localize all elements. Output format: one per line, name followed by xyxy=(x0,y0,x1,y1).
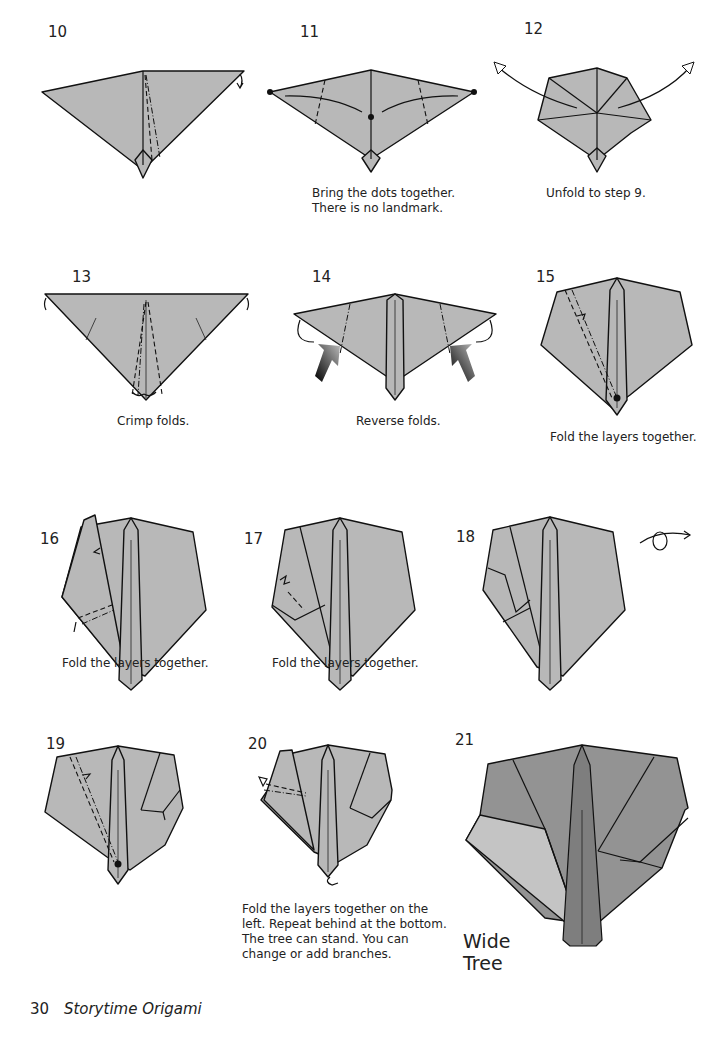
result-title: Wide Tree xyxy=(463,930,510,974)
book-title: Storytime Origami xyxy=(64,1000,202,1018)
page-footer: 30 Storytime Origami xyxy=(30,1000,202,1018)
step-21-diagram xyxy=(0,0,727,1051)
page-number: 30 xyxy=(30,1000,49,1018)
